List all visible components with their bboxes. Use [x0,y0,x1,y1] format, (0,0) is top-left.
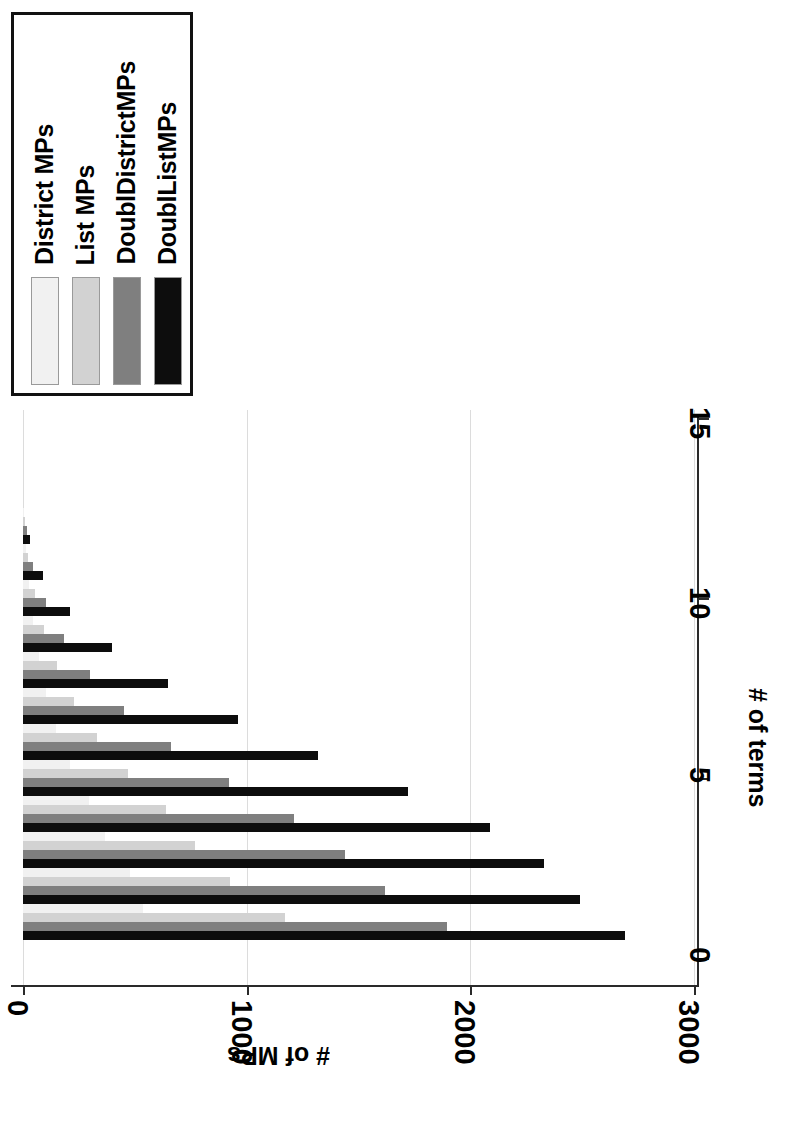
chart-legend: District MPs List MPs DoublDistrictMPs D… [11,12,193,396]
bar [23,661,57,670]
legend-entry: DoublDistrictMPs [106,25,147,387]
bar [23,679,168,688]
bar [23,922,447,931]
bar [23,841,195,850]
legend-swatch-doubl-district-mps [113,277,141,385]
bar [23,895,580,904]
bar [23,877,230,886]
bar [23,850,345,859]
bar [23,688,46,697]
bar [23,724,56,733]
bars-layer [0,398,798,988]
bar [23,832,105,841]
bar [23,715,238,724]
bar [23,517,25,526]
legend-swatch-doubl-list-mps [154,277,182,385]
chart-figure: District MPs List MPs DoublDistrictMPs D… [0,0,798,1124]
legend-entries: District MPs List MPs DoublDistrictMPs D… [14,15,196,399]
bar [23,868,130,877]
value-tick [694,986,696,995]
bar [23,634,64,643]
bar [23,571,43,580]
bar [23,553,28,562]
bar [23,580,29,589]
category-axis-line [697,416,699,986]
bar [23,814,294,823]
plot-area: 0100020003000 051015 # of MPs # of terms [0,398,798,988]
category-tick-label: 0 [683,947,716,963]
bar [23,733,97,742]
value-tick [470,986,472,995]
bar [23,670,90,679]
bar [23,778,229,787]
bar [23,751,318,760]
bar [23,931,625,940]
legend-label-doubl-list-mps: DoublListMPs [155,102,180,265]
bar [23,787,408,796]
bar [23,913,285,922]
bar [23,769,128,778]
bar [23,625,44,634]
bar [23,805,166,814]
category-tick-label: 10 [683,587,716,619]
value-axis-title: # of MPs [227,1041,330,1070]
bar [23,562,33,571]
legend-label-doubl-district-mps: DoublDistrictMPs [114,61,139,265]
bar [23,508,24,517]
category-tick-label: 15 [683,407,716,439]
bar [23,607,70,616]
bar [23,589,35,598]
legend-entry: List MPs [65,25,106,387]
bar [23,697,74,706]
value-tick-label: 2000 [448,1000,481,1065]
bar [23,544,26,553]
value-tick-label: 0 [1,1000,34,1016]
bar [23,823,490,832]
category-tick-label: 5 [683,767,716,783]
bar [23,616,33,625]
legend-swatch-district-mps [31,277,59,385]
bar [23,535,30,544]
category-axis-title: # of terms [743,688,772,807]
value-tick-label: 3000 [672,1000,705,1065]
bar [23,526,27,535]
bar [23,598,46,607]
bar [23,742,171,751]
bar [23,796,89,805]
bar [23,643,112,652]
legend-entry: DoublListMPs [147,25,188,387]
bar [23,886,385,895]
bar [23,652,39,661]
bar [23,859,544,868]
legend-swatch-list-mps [72,277,100,385]
bar [23,706,124,715]
value-tick [247,986,249,995]
value-tick [23,986,25,995]
legend-entry: District MPs [24,25,65,387]
legend-label-district-mps: District MPs [32,124,57,265]
bar [23,904,143,913]
value-axis-line [11,985,699,987]
bar [23,760,70,769]
legend-label-list-mps: List MPs [73,165,98,265]
